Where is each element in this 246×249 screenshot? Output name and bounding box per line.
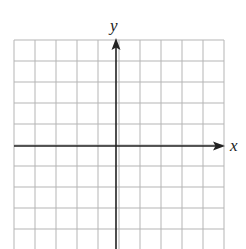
- x-axis-label: x: [229, 136, 238, 155]
- coordinate-plane: x y: [0, 0, 246, 249]
- y-axis-label: y: [108, 16, 118, 35]
- grid-lines: [14, 40, 224, 249]
